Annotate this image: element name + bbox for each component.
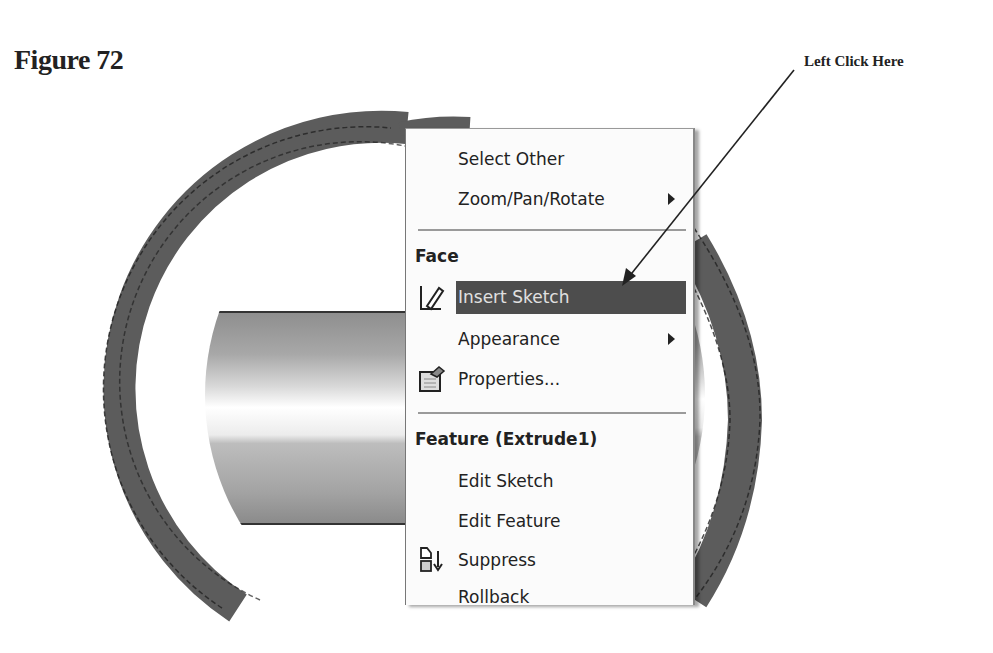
menu-section-header-face: Face: [415, 246, 459, 266]
menu-item-zoom-pan-rotate[interactable]: Zoom/Pan/Rotate: [406, 181, 689, 217]
menu-item-insert-sketch[interactable]: Insert Sketch: [406, 279, 689, 315]
menu-item-suppress[interactable]: Suppress: [406, 542, 689, 578]
menu-item-properties[interactable]: Properties...: [406, 361, 689, 397]
suppress-icon: [415, 545, 449, 575]
menu-item-select-other[interactable]: Select Other: [406, 141, 689, 177]
properties-icon: [415, 364, 449, 394]
menu-section-header-feature: Feature (Extrude1): [415, 429, 597, 449]
menu-item-rollback[interactable]: Rollback: [406, 579, 689, 605]
menu-separator: [418, 412, 686, 414]
menu-item-edit-feature[interactable]: Edit Feature: [406, 503, 689, 539]
sketch-pencil-icon: [415, 282, 449, 312]
menu-item-appearance[interactable]: Appearance: [406, 321, 689, 357]
menu-item-edit-sketch[interactable]: Edit Sketch: [406, 463, 689, 499]
menu-separator: [418, 229, 686, 231]
submenu-arrow-icon: [668, 193, 675, 205]
submenu-arrow-icon: [668, 333, 675, 345]
context-menu: Select Other Zoom/Pan/Rotate Face Insert…: [405, 128, 695, 605]
